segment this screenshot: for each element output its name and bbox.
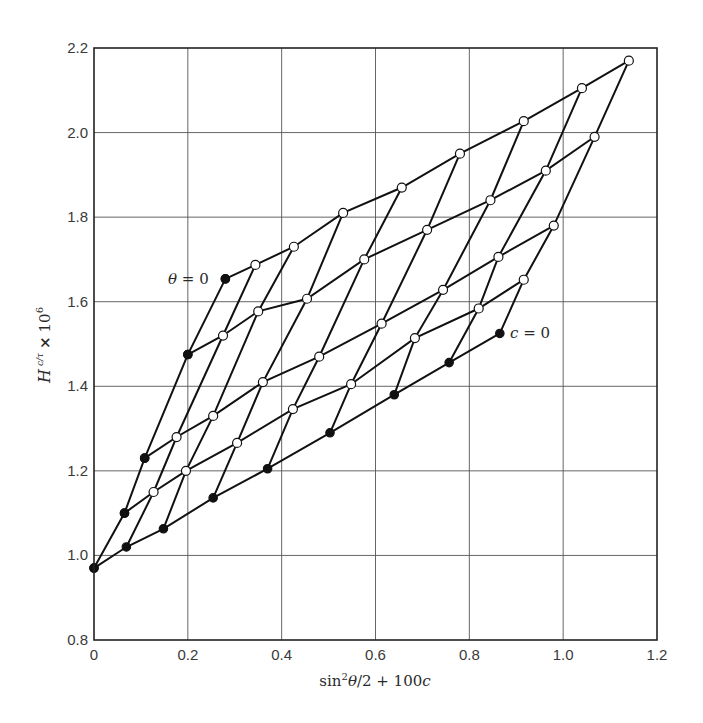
x-tick-label: 1.2 xyxy=(647,646,668,663)
open-point xyxy=(439,285,448,294)
y-tick-label: 1.8 xyxy=(67,208,88,225)
open-point xyxy=(149,488,158,497)
open-point xyxy=(315,352,324,361)
open-point xyxy=(233,438,242,447)
open-point xyxy=(549,221,558,230)
filled-point xyxy=(326,429,334,437)
open-point xyxy=(347,380,356,389)
x-label-c: c xyxy=(422,672,431,690)
x-tick-label: 0.4 xyxy=(271,646,292,663)
filled-point xyxy=(445,358,453,366)
open-point xyxy=(541,166,550,175)
open-point xyxy=(486,196,495,205)
open-point xyxy=(455,149,464,158)
annotation-c-zero: c = 0 xyxy=(510,324,550,342)
theta-line xyxy=(163,247,294,529)
open-point xyxy=(494,252,503,261)
theta-line xyxy=(500,61,629,334)
filled-point xyxy=(120,509,128,517)
y-label-exp: 6 xyxy=(34,307,45,313)
y-tick-label: 0.8 xyxy=(67,631,88,648)
x-tick-label: 0.8 xyxy=(459,646,480,663)
filled-point xyxy=(221,275,229,283)
open-point xyxy=(219,331,228,340)
zimm-plot: 00.20.40.60.81.01.2 0.81.01.21.41.61.82.… xyxy=(0,0,703,723)
y-label-frac: c/τ xyxy=(35,352,45,366)
x-tick-label: 0.6 xyxy=(365,646,386,663)
y-tick-label: 1.6 xyxy=(67,293,88,310)
open-point xyxy=(288,405,297,414)
open-point xyxy=(360,255,369,264)
open-point xyxy=(577,84,586,93)
open-point xyxy=(303,294,312,303)
y-axis-ticks: 0.81.01.21.41.61.82.02.2 xyxy=(67,39,88,648)
series-line xyxy=(125,280,524,513)
filled-point xyxy=(496,329,504,337)
series-line xyxy=(225,61,629,279)
filled-point xyxy=(390,391,398,399)
x-tick-label: 1.0 xyxy=(553,646,574,663)
data-points xyxy=(90,56,634,572)
y-tick-label: 2.0 xyxy=(67,124,88,141)
filled-point xyxy=(263,465,271,473)
y-tick-label: 1.2 xyxy=(67,462,88,479)
theta-line xyxy=(126,265,255,547)
data-network xyxy=(94,61,629,568)
series-line xyxy=(94,279,225,568)
open-point xyxy=(339,208,348,217)
open-point xyxy=(474,304,483,313)
open-point xyxy=(519,117,528,126)
open-point xyxy=(258,378,267,387)
x-label-rest: /2 + 100 xyxy=(357,672,422,690)
y-axis-label: Hc/τ×106 xyxy=(34,307,54,384)
svg-text:Hc/τ×106: Hc/τ×106 xyxy=(34,307,54,384)
open-point xyxy=(519,275,528,284)
x-axis-label: sin2θ/2 + 100c xyxy=(319,671,431,690)
y-label-H: H xyxy=(35,368,54,384)
open-point xyxy=(172,433,181,442)
open-point xyxy=(289,242,298,251)
x-label-theta: θ xyxy=(348,672,357,690)
filled-point xyxy=(122,543,130,551)
open-point xyxy=(181,466,190,475)
series-line xyxy=(145,226,554,459)
x-label-sin: sin xyxy=(319,672,341,690)
series-line xyxy=(188,137,595,355)
filled-point xyxy=(140,454,148,462)
x-axis-ticks: 00.20.40.60.81.01.2 xyxy=(90,646,668,663)
open-point xyxy=(624,56,633,65)
y-tick-label: 2.2 xyxy=(67,39,88,56)
y-tick-label: 1.4 xyxy=(67,377,88,394)
filled-point xyxy=(209,494,217,502)
y-label-ten: 10 xyxy=(36,313,54,332)
open-point xyxy=(254,307,263,316)
annotation-theta-zero: θ = 0 xyxy=(168,270,209,288)
open-point xyxy=(423,225,432,234)
open-point xyxy=(209,411,218,420)
open-point xyxy=(410,334,419,343)
y-label-times: × xyxy=(36,336,54,349)
open-point xyxy=(397,183,406,192)
x-tick-label: 0.2 xyxy=(177,646,198,663)
filled-point xyxy=(159,525,167,533)
x-tick-label: 0 xyxy=(90,646,98,663)
y-tick-label: 1.0 xyxy=(67,546,88,563)
filled-point xyxy=(184,350,192,358)
open-point xyxy=(377,319,386,328)
open-point xyxy=(590,132,599,141)
open-point xyxy=(251,260,260,269)
grid-lines xyxy=(94,48,657,640)
